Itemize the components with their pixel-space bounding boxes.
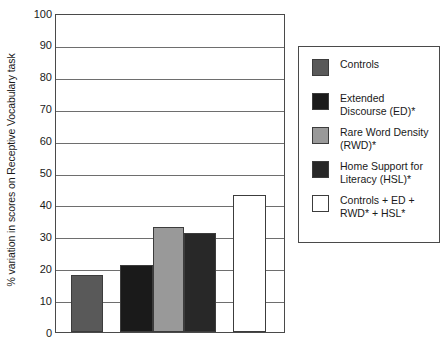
legend-item-label: Home Support for Literacy (HSL)*	[340, 160, 423, 185]
legend-item[interactable]: Rare Word Density (RWD)*	[312, 126, 439, 152]
bar	[120, 265, 153, 332]
bar	[153, 227, 184, 332]
legend-item[interactable]: Controls + ED + RWD* + HSL*	[312, 194, 439, 220]
y-tick-label: 90	[6, 40, 52, 51]
y-tick-label: 70	[6, 104, 52, 115]
y-tick-label: 40	[6, 200, 52, 211]
legend-item-label: Rare Word Density (RWD)*	[340, 126, 429, 151]
y-tick-label: 60	[6, 136, 52, 147]
legend-item[interactable]: Controls	[312, 58, 439, 84]
legend: ControlsExtended Discourse (ED)*Rare Wor…	[298, 46, 440, 243]
legend-swatch-icon	[312, 59, 329, 76]
legend-item[interactable]: Home Support for Literacy (HSL)*	[312, 160, 439, 186]
legend-swatch-icon	[312, 195, 329, 212]
bar	[71, 275, 103, 332]
y-tick-label: 0	[6, 328, 52, 339]
bar	[184, 233, 216, 332]
y-tick-label: 100	[6, 9, 52, 20]
gridline	[56, 111, 284, 112]
gridline	[56, 47, 284, 48]
gridline	[56, 175, 284, 176]
legend-item-label: Extended Discourse (ED)*	[340, 92, 415, 117]
gridline	[56, 143, 284, 144]
legend-item-label: Controls	[340, 58, 379, 71]
legend-swatch-icon	[312, 127, 329, 144]
y-tick-label: 20	[6, 264, 52, 275]
legend-swatch-icon	[312, 93, 329, 110]
y-tick-label: 50	[6, 168, 52, 179]
bar	[233, 195, 266, 332]
gridline	[56, 79, 284, 80]
plot-area	[55, 14, 285, 333]
legend-swatch-icon	[312, 161, 329, 178]
y-tick-label: 10	[6, 296, 52, 307]
legend-item-label: Controls + ED + RWD* + HSL*	[340, 194, 415, 219]
y-tick-label: 80	[6, 72, 52, 83]
legend-item[interactable]: Extended Discourse (ED)*	[312, 92, 439, 118]
y-tick-label: 30	[6, 232, 52, 243]
